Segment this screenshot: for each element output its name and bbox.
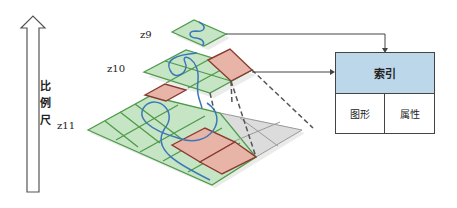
scale-label-char: 例 [38, 97, 52, 111]
layer-z10 [144, 49, 256, 108]
layer-label-z11: z11 [57, 120, 75, 131]
layer-z9 [172, 20, 230, 50]
index-table: 索引 图形 属性 [335, 52, 435, 134]
index-header: 索引 [336, 53, 434, 94]
layer-label-z9: z9 [140, 29, 152, 40]
index-cell-geometry: 图形 [336, 94, 385, 133]
layer-z11 [88, 96, 305, 188]
index-cell-attribute: 属性 [385, 94, 434, 133]
scale-label-char: 尺 [38, 114, 52, 128]
tile-pyramid-diagram: 比 例 尺 z9 z10 z11 索引 图形 属性 [0, 0, 457, 208]
scale-label-char: 比 [38, 80, 52, 94]
layer-label-z10: z10 [107, 63, 125, 74]
